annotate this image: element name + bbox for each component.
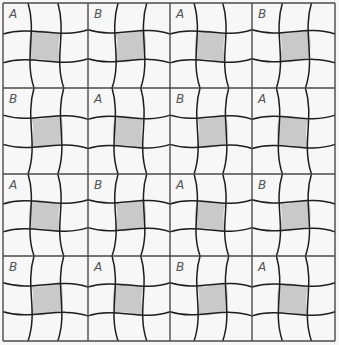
shaded-cell xyxy=(279,29,310,62)
tile-pattern-diagram: ABABBABAABABBABA xyxy=(0,0,339,345)
tile-label: B xyxy=(258,7,266,21)
shaded-cell xyxy=(113,283,144,316)
shaded-cell xyxy=(29,200,61,232)
tile-label: A xyxy=(93,260,102,274)
tile-label: A xyxy=(257,260,266,274)
shaded-cell xyxy=(31,282,63,315)
tile-label: A xyxy=(175,7,184,21)
shaded-cell xyxy=(29,30,61,63)
shaded-cell xyxy=(279,199,310,231)
tile-label: B xyxy=(258,178,266,192)
tile-label: A xyxy=(257,92,266,106)
shaded-cell xyxy=(197,114,228,148)
tile-label: B xyxy=(9,260,17,274)
tile-label: B xyxy=(94,178,102,192)
tile-label: A xyxy=(93,92,102,106)
tile-label: A xyxy=(8,7,17,21)
tile-label: A xyxy=(175,178,184,192)
shaded-cell xyxy=(195,30,226,63)
tile-label: B xyxy=(94,7,102,21)
shaded-cell xyxy=(115,29,146,62)
shaded-cell xyxy=(113,116,144,150)
shaded-cell xyxy=(195,200,226,232)
shaded-cell xyxy=(197,282,228,315)
tile-label: A xyxy=(8,178,17,192)
tile-label: B xyxy=(176,92,184,106)
shaded-cell xyxy=(277,116,308,150)
tile-label: B xyxy=(176,260,184,274)
shaded-cell xyxy=(277,283,308,316)
shaded-cell xyxy=(31,114,63,148)
tile-label: B xyxy=(9,92,17,106)
shaded-cell xyxy=(115,199,146,231)
